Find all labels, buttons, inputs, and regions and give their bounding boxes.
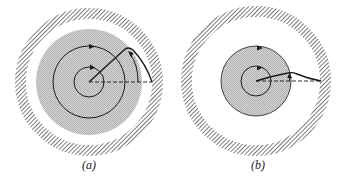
panel-label-b: (b) [251,158,265,172]
figure: (a) (b) [0,0,342,186]
panel-a: (a) [21,14,158,173]
panel-label-a: (a) [82,158,96,172]
panel-b: (b) [187,12,326,173]
